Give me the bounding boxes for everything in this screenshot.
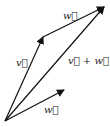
- label-v: v⃗: [16, 57, 28, 68]
- vector-addition-diagram: v⃗ w⃗ v⃗ + w⃗ w⃗: [0, 0, 110, 127]
- label-v-plus-w: v⃗ + w⃗: [68, 55, 109, 66]
- vector-v-arrow: [5, 37, 43, 121]
- label-w-bottom: w⃗: [44, 104, 59, 115]
- label-w-top: w⃗: [63, 10, 78, 21]
